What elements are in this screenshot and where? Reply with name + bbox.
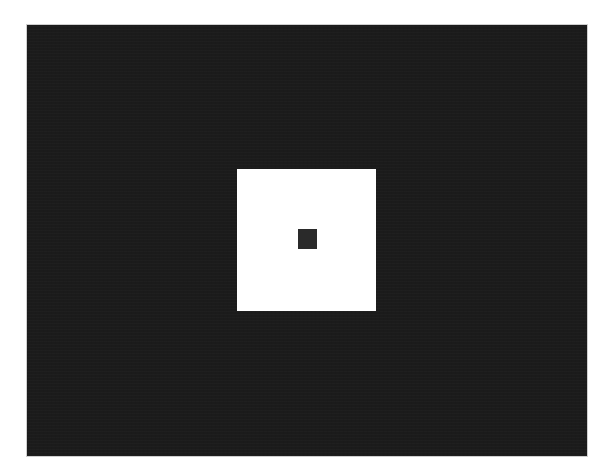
center-square xyxy=(298,229,317,249)
figure-canvas xyxy=(0,0,613,475)
